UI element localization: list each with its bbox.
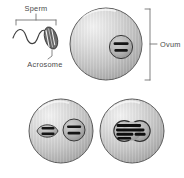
panel-fused-zygote-nucleus: [100, 99, 164, 163]
sperm-bracket: [16, 14, 56, 25]
sperm-pronucleus-membrane-icon: [37, 125, 58, 137]
sperm-head-icon: [42, 25, 61, 50]
ovum-nucleus-stage1: [109, 35, 132, 58]
nucleus-membrane-icon: [109, 35, 132, 58]
sperm-head: [42, 25, 61, 50]
fused-nucleus: [114, 119, 150, 144]
diagram-canvas: Sperm Acrosome: [0, 0, 184, 178]
sperm-tail-icon: [13, 29, 46, 43]
panel-sperm-nucleus-inside-ovum: [29, 99, 93, 163]
fertilization-diagram: Sperm Acrosome: [0, 0, 184, 178]
ovum-pronucleus-membrane-icon: [63, 119, 85, 141]
acrosome-leader-line: [48, 50, 52, 59]
sperm-pronucleus: [37, 125, 58, 137]
panel-sperm-approaching-ovum: Sperm Acrosome: [13, 4, 181, 80]
acrosome-label: Acrosome: [27, 60, 62, 69]
ovum-label: Ovum: [160, 40, 181, 49]
sperm-label: Sperm: [24, 4, 47, 13]
ovum-bracket: [145, 9, 157, 80]
ovum-pronucleus: [63, 119, 85, 141]
